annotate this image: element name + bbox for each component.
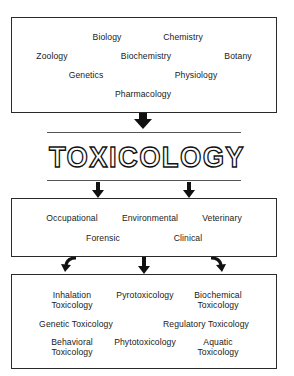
application-areas-box bbox=[11, 198, 277, 257]
sub-aquatic-line1: Aquatic bbox=[203, 337, 232, 347]
discipline-physiology: Physiology bbox=[175, 70, 218, 80]
sub-behavioral-line2: Toxicology bbox=[51, 347, 92, 357]
discipline-biochemistry: Biochemistry bbox=[121, 51, 171, 61]
discipline-chemistry: Chemistry bbox=[163, 32, 203, 42]
sub-genetic-toxicology: Genetic Toxicology bbox=[39, 319, 113, 329]
title-bottom-rule bbox=[47, 180, 241, 181]
discipline-zoology: Zoology bbox=[36, 51, 67, 61]
arrow-down-large-icon bbox=[134, 113, 152, 129]
arrow-down-center-icon bbox=[138, 257, 150, 274]
sub-phytotoxicology: Phytotoxicology bbox=[114, 337, 176, 347]
discipline-botany: Botany bbox=[224, 51, 251, 61]
area-clinical: Clinical bbox=[174, 233, 203, 243]
sub-regulatory-toxicology: Regulatory Toxicology bbox=[163, 319, 249, 329]
sub-inhalation-line2: Toxicology bbox=[51, 300, 92, 310]
arrow-down-small-right-icon bbox=[183, 182, 195, 198]
title-top-rule bbox=[47, 132, 241, 133]
discipline-biology: Biology bbox=[93, 32, 122, 42]
toxicology-title: TOXICOLOGY bbox=[0, 138, 294, 178]
sub-aquatic-line2: Toxicology bbox=[197, 347, 238, 357]
area-occupational: Occupational bbox=[46, 213, 97, 223]
svg-text:TOXICOLOGY: TOXICOLOGY bbox=[49, 140, 245, 173]
area-forensic: Forensic bbox=[86, 233, 120, 243]
sub-inhalation-line1: Inhalation bbox=[53, 290, 91, 300]
sub-biochemical-line2: Toxicology bbox=[197, 300, 238, 310]
arrow-curved-right-icon bbox=[209, 257, 227, 273]
discipline-genetics: Genetics bbox=[69, 70, 104, 80]
sub-pyrotoxicology: Pyrotoxicology bbox=[116, 290, 173, 300]
discipline-pharmacology: Pharmacology bbox=[115, 89, 171, 99]
sub-behavioral-line1: Behavioral bbox=[51, 337, 93, 347]
arrow-down-small-left-icon bbox=[92, 182, 104, 198]
area-veterinary: Veterinary bbox=[202, 213, 242, 223]
sub-biochemical-line1: Biochemical bbox=[194, 290, 241, 300]
toxicology-title-outline: TOXICOLOGY bbox=[0, 138, 294, 174]
arrow-curved-left-icon bbox=[60, 257, 78, 273]
area-environmental: Environmental bbox=[122, 213, 178, 223]
